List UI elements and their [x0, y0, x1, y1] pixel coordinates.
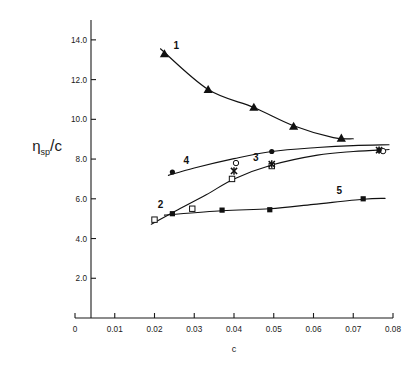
data-point-series-1 — [337, 134, 346, 142]
y-tick-label: 4.0 — [76, 235, 88, 244]
y-tick-label: 12.0 — [71, 76, 87, 85]
x-tick-label: 0.06 — [306, 325, 322, 334]
series-label-4: 4 — [184, 155, 190, 166]
data-point-series-1 — [289, 122, 298, 130]
data-point-series-4 — [170, 169, 175, 174]
curve-5 — [164, 198, 385, 215]
data-point-series-2 — [190, 206, 195, 211]
x-tick-label: 0.07 — [345, 325, 361, 334]
series-labels: 12345 — [158, 40, 343, 210]
x-tick-label: 0 — [73, 325, 78, 334]
y-axis-ticks: 2.04.06.08.010.012.014.0 — [71, 36, 96, 283]
x-tick-label: 0.03 — [186, 325, 202, 334]
curve-1 — [160, 49, 353, 139]
curve-4 — [168, 145, 389, 176]
data-point-series-3-open-circles — [233, 160, 238, 165]
y-tick-label: 14.0 — [71, 36, 87, 45]
x-tick-label: 0.02 — [147, 325, 163, 334]
data-point-series-5 — [219, 208, 224, 213]
data-point-series-4 — [376, 148, 381, 153]
series-label-1: 1 — [174, 40, 180, 51]
data-point-series-2 — [229, 176, 234, 181]
data-point-series-2 — [152, 217, 157, 222]
plot-area: 00.010.020.030.040.050.060.070.08 2.04.0… — [0, 0, 419, 367]
x-tick-label: 0.08 — [385, 325, 401, 334]
x-axis-ticks: 00.010.020.030.040.050.060.070.08 — [73, 313, 402, 334]
y-tick-label: 8.0 — [76, 155, 88, 164]
x-tick-label: 0.05 — [266, 325, 282, 334]
data-point-series-1 — [249, 103, 258, 111]
series-label-2: 2 — [158, 199, 164, 210]
series-label-5: 5 — [337, 185, 343, 196]
data-point-series-1 — [160, 49, 169, 57]
y-tick-label: 2.0 — [76, 274, 88, 283]
chart-figure: ηsp/c 00.010.020.030.040.050.060.070.08 … — [0, 0, 419, 367]
data-point-series-5 — [267, 207, 272, 212]
data-point-series-1 — [204, 85, 213, 93]
x-tick-label: 0.01 — [107, 325, 123, 334]
data-point-series-4 — [269, 149, 274, 154]
data-point-series-5 — [361, 196, 366, 201]
x-axis-title: c — [232, 344, 237, 354]
x-tick-label: 0.04 — [226, 325, 242, 334]
series-label-3: 3 — [253, 152, 259, 163]
y-tick-label: 6.0 — [76, 195, 88, 204]
data-markers — [152, 49, 386, 222]
data-point-series-5 — [170, 211, 175, 216]
data-curves — [151, 49, 389, 224]
y-tick-label: 10.0 — [71, 115, 87, 124]
